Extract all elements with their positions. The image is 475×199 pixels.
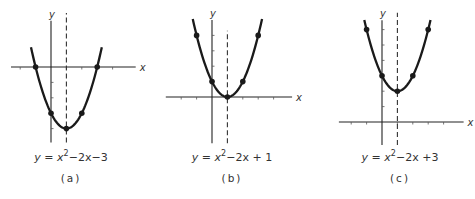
data-point (48, 110, 54, 116)
x-axis-label: x (295, 92, 302, 103)
caption-c: (c) (390, 172, 410, 184)
caption-b: (b) (222, 172, 243, 184)
data-point (410, 73, 416, 79)
data-point (395, 88, 401, 94)
caption-a: (a) (61, 172, 82, 184)
equation-label-b: y = x2−2x + 1 (192, 149, 272, 164)
parabola-figure: xyxyxy (0, 0, 475, 199)
data-point (425, 27, 431, 33)
data-point (94, 64, 100, 70)
panel-c: xy (339, 8, 474, 145)
x-axis-label: x (467, 117, 474, 128)
data-point (33, 64, 39, 70)
y-axis-label: y (209, 8, 217, 19)
data-point (64, 126, 70, 132)
data-point (240, 79, 246, 85)
equation-label-c: y = x2−2x +3 (362, 149, 439, 164)
data-point (225, 94, 231, 100)
data-point (255, 33, 261, 39)
data-point (364, 27, 370, 33)
equation-label-a: y = x2−2x−3 (34, 149, 107, 164)
data-point (209, 79, 215, 85)
x-axis-label: x (139, 62, 146, 73)
data-point (79, 110, 85, 116)
panel-b: xy (166, 8, 302, 143)
panel-a: xy (11, 9, 146, 143)
y-axis-label: y (48, 9, 56, 20)
y-axis-label: y (379, 8, 387, 19)
data-point (194, 33, 200, 39)
data-point (379, 73, 385, 79)
